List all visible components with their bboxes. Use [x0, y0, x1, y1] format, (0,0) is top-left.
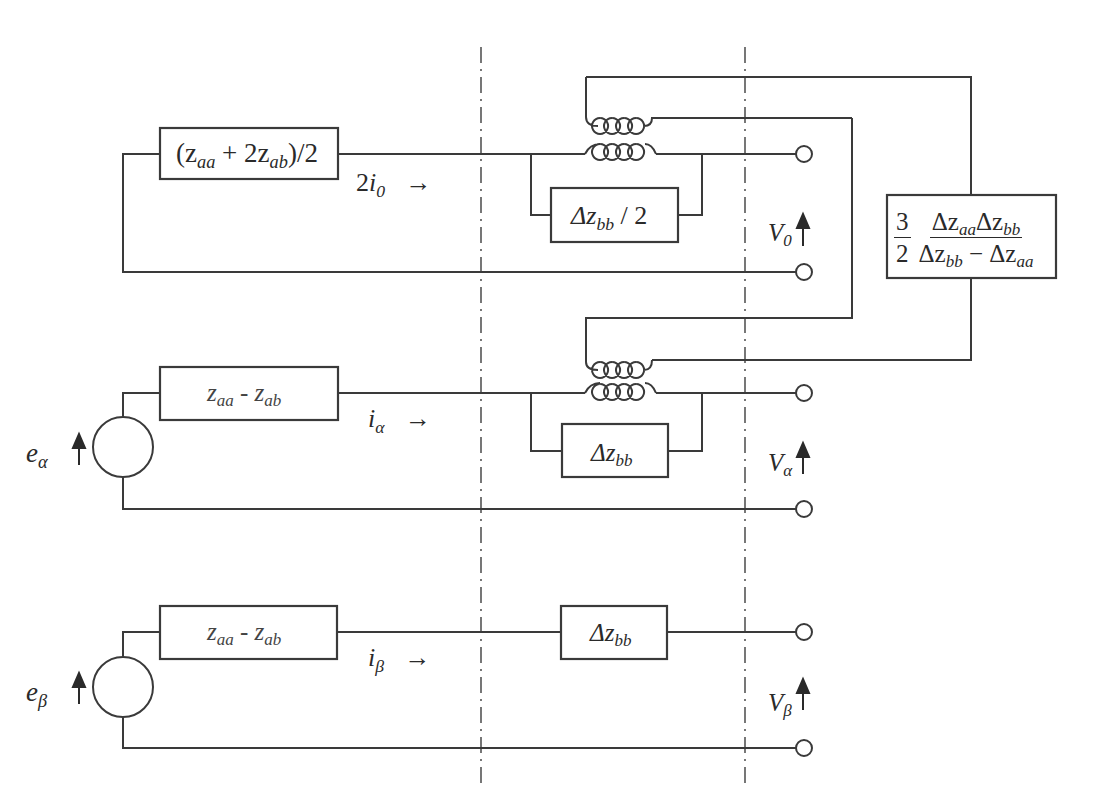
- coupling-impedance-formula: 3 2 ΔzaaΔzbb Δzbb − Δzaa: [894, 200, 1035, 274]
- beta-series-impedance-label: zaa - zab: [207, 619, 281, 644]
- zero-shunt-impedance-label: Δzbb / 2: [571, 203, 647, 229]
- beta-voltage-source-icon: [93, 657, 153, 717]
- alpha-series-impedance-label: zaa - zab: [207, 380, 281, 405]
- alpha-voltage-source-icon: [93, 417, 153, 477]
- coefficient-fraction: 3 2: [894, 209, 911, 266]
- zero-transformer-upper-coil-icon: [586, 77, 852, 134]
- zero-series-impedance-label: (zaa + 2zab)/2: [176, 140, 318, 167]
- alpha-shunt-impedance-label: Δzbb: [591, 440, 632, 465]
- beta-terminal-top: [796, 624, 812, 640]
- alpha-source-label: eα: [26, 440, 48, 467]
- zero-terminal-top: [796, 146, 812, 162]
- zero-terminal-bottom: [796, 264, 812, 280]
- beta-extra-impedance-label: Δzbb: [590, 620, 631, 645]
- beta-source-label: eβ: [26, 679, 47, 706]
- alpha-terminal-bottom: [796, 501, 812, 517]
- zero-current-label: 2i0: [356, 170, 432, 196]
- alpha-current-label: iα: [368, 406, 431, 432]
- alpha-transformer-lower-coil-icon: [585, 383, 656, 400]
- zero-transformer-lower-coil-icon: [585, 144, 656, 160]
- alpha-transformer-upper-coil-icon: [586, 360, 652, 378]
- zero-voltage-label: V0: [768, 220, 792, 245]
- ratio-fraction: ΔzaaΔzbb Δzbb − Δzaa: [917, 209, 1036, 266]
- beta-current-label: iβ: [368, 645, 431, 671]
- alpha-terminal-top: [796, 385, 812, 401]
- circuit-diagram: [0, 0, 1096, 807]
- alpha-sequence-circuit: [93, 360, 812, 517]
- beta-sequence-circuit: [93, 606, 812, 756]
- zero-sequence-circuit: [123, 77, 852, 280]
- beta-voltage-label: Vβ: [768, 690, 792, 715]
- beta-terminal-bottom: [796, 740, 812, 756]
- alpha-voltage-label: Vα: [768, 450, 792, 475]
